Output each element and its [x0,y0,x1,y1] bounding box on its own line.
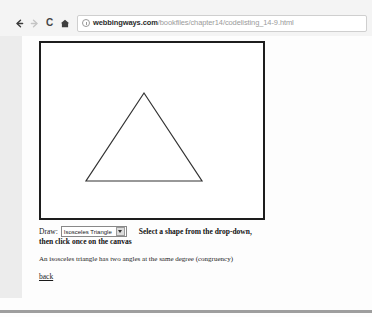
url-path: /bookfiles/chapter14/codelisting_14-9.ht… [158,18,294,27]
isosceles-triangle-shape [86,93,202,181]
forward-arrow-icon[interactable] [28,16,41,30]
shape-select-value: Isosceles Triangle [62,229,116,235]
shape-select[interactable]: Isosceles Triangle [61,226,127,237]
desk-edge-line [0,310,372,313]
reload-icon[interactable]: C [43,16,56,30]
drawing-canvas[interactable] [39,41,265,220]
browser-chrome: C webbingways.com/bookfiles/chapter14/co… [0,0,372,37]
back-link[interactable]: back [39,272,53,281]
below-page-area [0,298,372,317]
address-bar[interactable]: webbingways.com/bookfiles/chapter14/code… [77,15,367,32]
hint-text-line-1: Select a shape from the drop-down, [139,227,252,236]
browser-toolbar: C webbingways.com/bookfiles/chapter14/co… [0,12,372,34]
home-icon[interactable] [58,16,71,30]
hint-text-line-2: then click once on the canvas [39,237,132,246]
chevron-down-icon[interactable] [116,227,125,236]
draw-label: Draw: [39,227,58,236]
shape-description: An isosceles triangle has two angles at … [39,255,233,263]
shape-form-row: Draw: Isosceles Triangle Select a shape … [39,226,339,237]
page-left-gutter [0,36,22,298]
url-host: webbingways.com [93,18,158,27]
screenshot-root: C webbingways.com/bookfiles/chapter14/co… [0,0,372,317]
back-arrow-icon[interactable] [13,16,26,30]
page-viewport: Draw: Isosceles Triangle Select a shape … [22,36,372,298]
page-info-icon [82,19,90,27]
